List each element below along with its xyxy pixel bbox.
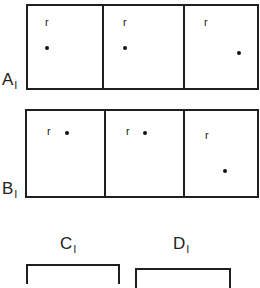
r-marker: r: [126, 126, 130, 137]
stimulus-dot: [237, 51, 241, 55]
row-a-cell-1: r: [28, 6, 104, 88]
col-label-c-subscript: I: [73, 243, 76, 255]
col-label-d: DI: [173, 235, 189, 254]
stimulus-dot: [65, 131, 69, 135]
row-label-a-letter: A: [2, 70, 13, 89]
row-a-cell-3: r: [185, 6, 257, 88]
col-label-d-subscript: I: [186, 243, 189, 255]
row-b-cell-3: r: [185, 111, 257, 196]
col-label-d-letter: D: [173, 234, 185, 253]
r-marker: r: [45, 17, 49, 28]
stimulus-dot: [223, 169, 227, 173]
r-marker: r: [205, 130, 209, 141]
stimulus-dot: [45, 46, 49, 50]
box-c: [26, 264, 120, 284]
r-marker: r: [47, 126, 51, 137]
row-label-b-letter: B: [2, 179, 13, 198]
box-d: [135, 268, 231, 288]
row-label-b-subscript: I: [14, 188, 17, 200]
row-a-cell-2: r: [104, 6, 185, 88]
row-label-a-subscript: I: [14, 79, 17, 91]
row-a-frame: r r r: [26, 4, 259, 90]
r-marker: r: [123, 17, 127, 28]
r-marker: r: [204, 17, 208, 28]
row-label-b: BI: [2, 180, 17, 199]
row-b-cell-1: r: [27, 111, 106, 196]
stimulus-dot: [123, 46, 127, 50]
col-label-c-letter: C: [60, 234, 72, 253]
col-label-c: CI: [60, 235, 76, 254]
stimulus-dot: [143, 131, 147, 135]
row-b-cell-2: r: [106, 111, 185, 196]
row-b-frame: r r r: [25, 109, 259, 198]
row-label-a: AI: [2, 71, 17, 90]
